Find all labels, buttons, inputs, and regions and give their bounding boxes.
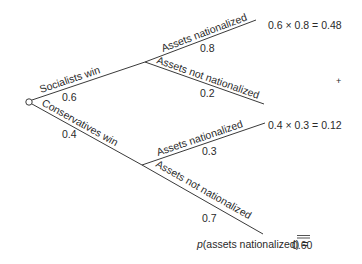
probability-tree-diagram: Socialists win 0.6 Conservatives win 0.4… — [0, 0, 362, 264]
branch-prob-socialists-win: 0.6 — [62, 91, 77, 103]
edge-conservatives-win — [32, 104, 142, 165]
branch-prob-con-assets-nationalized: 0.3 — [202, 145, 217, 157]
branch-label-con-assets-nationalized: Assets nationalized — [155, 117, 245, 158]
result-conservatives-nationalized: 0.4 × 0.3 = 0.12 — [268, 119, 342, 131]
branch-prob-soc-assets-nationalized: 0.8 — [200, 42, 215, 54]
result-socialists-nationalized: 0.6 × 0.8 = 0.48 — [268, 19, 342, 31]
total-value: 0.60 — [292, 239, 313, 251]
sum-plus-sign: + — [336, 76, 341, 86]
root-node — [26, 99, 32, 105]
branch-prob-conservatives-win: 0.4 — [62, 128, 77, 140]
branch-prob-con-assets-not-nationalized: 0.7 — [202, 212, 217, 224]
branch-prob-soc-assets-not-nationalized: 0.2 — [200, 87, 215, 99]
branch-label-conservatives-win: Conservatives win — [40, 96, 120, 148]
